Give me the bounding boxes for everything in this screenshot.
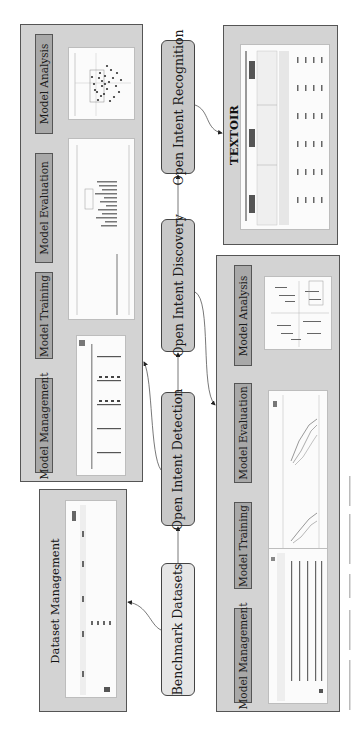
dis-stage-model-training: Model Training <box>234 502 252 589</box>
dataset-table-thumbnail <box>65 500 117 698</box>
det-evaluation-bar-thumbnail <box>68 138 135 320</box>
cluster-plot-image <box>265 277 332 350</box>
det-stage-model-management: Model Management <box>35 378 53 473</box>
det-analysis-scatter-thumbnail <box>68 47 135 120</box>
arrow-discovery-to-panel <box>195 292 215 405</box>
stage-label: Model Training <box>237 505 249 587</box>
dataset-table-image <box>66 501 117 698</box>
stage-label: Model Evaluation <box>237 386 249 480</box>
node-label: Open Intent Discovery <box>171 214 186 357</box>
stage-label: Model Training <box>38 275 50 357</box>
node-label: Open Intent Recognition <box>171 29 186 185</box>
table-image <box>77 336 126 476</box>
stage-label: Model Analysis <box>38 44 50 125</box>
stage-label: Model Management <box>237 602 249 709</box>
node-label: Open Intent Detection <box>171 388 186 530</box>
arrow-benchmark-to-datasets <box>128 602 161 630</box>
stage-label: Model Analysis <box>237 275 249 356</box>
panel-title-text: TEXTOIR <box>227 105 241 165</box>
dis-analysis-cluster-thumbnail <box>264 276 332 350</box>
node-benchmark-datasets: Benchmark Datasets <box>161 563 195 696</box>
dis-management-table-thumbnail <box>268 548 328 704</box>
node-open-intent-discovery: Open Intent Discovery <box>161 219 195 352</box>
dataset-management-title: Dataset Management <box>47 489 63 712</box>
line-chart-image <box>269 391 328 556</box>
panel-title-text: Dataset Management <box>48 538 62 663</box>
arrow-recognition-to-textoir <box>195 105 222 133</box>
textoir-results-thumbnail <box>240 44 330 230</box>
stage-label: Model Management <box>38 372 50 479</box>
results-table-image <box>241 45 330 230</box>
dis-stage-model-evaluation: Model Evaluation <box>234 383 252 483</box>
det-stage-model-analysis: Model Analysis <box>35 34 53 134</box>
bar-chart-image <box>69 139 135 320</box>
det-stage-model-training: Model Training <box>35 272 53 359</box>
dis-evaluation-line-thumbnail <box>268 390 328 556</box>
dis-stage-model-management: Model Management <box>234 608 252 703</box>
model-table-image <box>269 549 328 704</box>
node-open-intent-recognition: Open Intent Recognition <box>161 40 195 174</box>
stage-label: Model Evaluation <box>38 161 50 255</box>
scatter-plot-image <box>69 48 135 120</box>
figure-caption-strip <box>346 470 354 720</box>
det-stage-model-evaluation: Model Evaluation <box>35 153 53 263</box>
det-management-table-thumbnail <box>76 335 126 476</box>
dis-stage-model-analysis: Model Analysis <box>234 265 252 366</box>
arrow-detection-to-panel <box>144 362 161 470</box>
node-label: Benchmark Datasets <box>171 564 186 696</box>
node-open-intent-detection: Open Intent Detection <box>161 392 195 526</box>
